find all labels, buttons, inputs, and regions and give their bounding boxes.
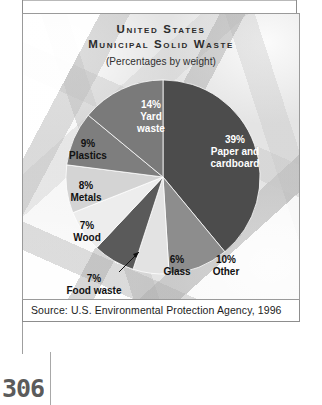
slice-name-line-2: cardboard	[191, 158, 279, 170]
slice-name-line-1: Metals	[58, 192, 114, 204]
slice-label-paper-and-cardboard: 39% Paper and cardboard	[191, 134, 279, 170]
slice-name-line-2: waste	[123, 123, 179, 135]
column-rule-right	[296, 0, 297, 13]
slice-name-line-1: Yard	[123, 111, 179, 123]
slice-label-yard-waste: 14% Yard waste	[123, 99, 179, 135]
source-text: Source: U.S. Environmental Protection Ag…	[31, 304, 282, 316]
column-rule-left	[22, 0, 23, 13]
slice-percent: 8%	[58, 180, 114, 192]
slice-label-glass: 6% Glass	[154, 254, 200, 278]
slice-percent: 9%	[57, 138, 119, 150]
slice-percent: 14%	[123, 99, 179, 111]
slice-percent: 7%	[49, 273, 139, 285]
slice-name-line-1: Glass	[154, 266, 200, 278]
column-rule-top	[22, 0, 297, 1]
slice-name-line-1: Plastics	[57, 150, 119, 162]
page-number-rule	[50, 352, 51, 405]
slice-label-wood: 7% Wood	[63, 220, 111, 244]
page-number: 306	[2, 376, 44, 403]
figure-panel: United States Municipal Solid Waste (Per…	[22, 13, 300, 300]
source-band: Source: U.S. Environmental Protection Ag…	[22, 300, 300, 322]
slice-name-line-1: Paper and	[191, 146, 279, 158]
slice-percent: 6%	[154, 254, 200, 266]
slice-percent: 10%	[203, 254, 249, 266]
slice-name-line-1: Other	[203, 266, 249, 278]
slice-label-metals: 8% Metals	[58, 180, 114, 204]
slice-label-food-waste: 7% Food waste	[49, 273, 139, 297]
slice-label-plastics: 9% Plastics	[57, 138, 119, 162]
slice-name-line-1: Food waste	[49, 285, 139, 297]
column-rule-bottom	[22, 322, 23, 354]
slice-percent: 7%	[63, 220, 111, 232]
slice-label-other: 10% Other	[203, 254, 249, 278]
slice-percent: 39%	[191, 134, 279, 146]
pie-chart: 39% Paper and cardboard 14% Yard waste 1…	[23, 14, 300, 300]
slice-name-line-1: Wood	[63, 232, 111, 244]
